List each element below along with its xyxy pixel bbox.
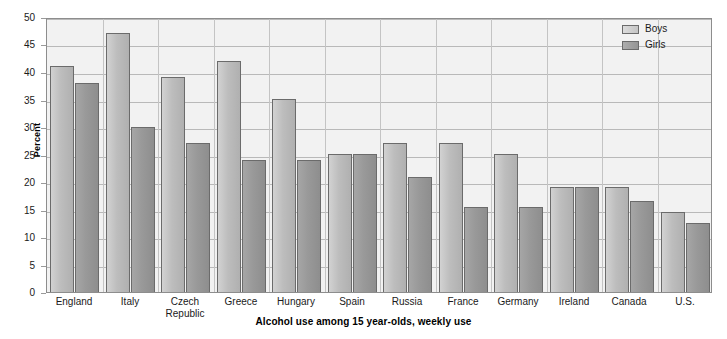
y-axis-tick-label: 20 bbox=[24, 178, 35, 188]
x-axis-tick-label: Greece bbox=[213, 296, 269, 308]
bar-girls-france bbox=[464, 207, 488, 292]
bar-girls-italy bbox=[131, 127, 155, 292]
chart-legend: BoysGirls bbox=[622, 22, 714, 54]
group-separator bbox=[436, 19, 437, 292]
legend-item-label: Girls bbox=[645, 40, 666, 50]
bar-girls-russia bbox=[408, 177, 432, 292]
group-separator bbox=[491, 19, 492, 292]
bar-girls-hungary bbox=[297, 160, 321, 292]
chart-caption: Alcohol use among 15 year-olds, weekly u… bbox=[0, 316, 727, 327]
x-axis-tick-label: Germany bbox=[490, 296, 546, 308]
group-separator bbox=[658, 19, 659, 292]
bar-boys-czech-republic bbox=[161, 77, 185, 292]
y-axis-tick-label: 10 bbox=[24, 233, 35, 243]
group-separator bbox=[103, 19, 104, 292]
gridline bbox=[47, 74, 711, 75]
group-separator bbox=[325, 19, 326, 292]
y-axis-tick-label: 15 bbox=[24, 206, 35, 216]
x-axis-tick-label: England bbox=[46, 296, 102, 308]
y-axis-tick-label: 30 bbox=[24, 123, 35, 133]
x-axis-tick-label: Canada bbox=[601, 296, 657, 308]
bar-girls-canada bbox=[630, 201, 654, 292]
bar-boys-greece bbox=[217, 61, 241, 292]
x-axis-tick-label: France bbox=[435, 296, 491, 308]
bar-boys-spain bbox=[328, 154, 352, 292]
bar-girls-germany bbox=[519, 207, 543, 292]
x-axis-tick-label: Spain bbox=[324, 296, 380, 308]
bar-boys-france bbox=[439, 143, 463, 292]
bar-girls-spain bbox=[353, 154, 377, 292]
x-axis-tick-label: Hungary bbox=[268, 296, 324, 308]
gridline bbox=[47, 46, 711, 47]
legend-item-boys[interactable]: Boys bbox=[622, 22, 714, 36]
group-separator bbox=[602, 19, 603, 292]
bar-chart: Percent 05101520253035404550 EnglandItal… bbox=[0, 0, 727, 339]
y-axis-tick-label: 40 bbox=[24, 68, 35, 78]
bar-girls-ireland bbox=[575, 187, 599, 292]
group-separator bbox=[380, 19, 381, 292]
legend-item-label: Boys bbox=[645, 24, 667, 34]
bar-girls-czech-republic bbox=[186, 143, 210, 292]
plot-area bbox=[46, 18, 712, 293]
bar-girls-greece bbox=[242, 160, 266, 292]
legend-swatch-icon bbox=[622, 25, 639, 34]
x-axis-tick-label: Italy bbox=[102, 296, 158, 308]
legend-item-girls[interactable]: Girls bbox=[622, 38, 714, 52]
y-axis-tick-label: 45 bbox=[24, 40, 35, 50]
bar-girls-u-s bbox=[686, 223, 710, 292]
bar-girls-england bbox=[75, 83, 99, 292]
bar-boys-germany bbox=[494, 154, 518, 292]
gridline bbox=[47, 19, 711, 20]
group-separator bbox=[214, 19, 215, 292]
bar-boys-ireland bbox=[550, 187, 574, 292]
x-axis-tick-label: U.S. bbox=[657, 296, 713, 308]
y-axis-tick-mark bbox=[41, 293, 46, 294]
group-separator bbox=[547, 19, 548, 292]
group-separator bbox=[269, 19, 270, 292]
bar-boys-canada bbox=[605, 187, 629, 292]
bar-boys-u-s bbox=[661, 212, 685, 292]
y-axis-tick-label: 5 bbox=[29, 261, 35, 271]
y-axis-ticks: 05101520253035404550 bbox=[0, 18, 40, 293]
bar-boys-england bbox=[50, 66, 74, 292]
bar-boys-italy bbox=[106, 33, 130, 292]
gridline bbox=[47, 102, 711, 103]
y-axis-tick-label: 35 bbox=[24, 96, 35, 106]
x-axis-tick-label: Russia bbox=[379, 296, 435, 308]
y-axis-tick-label: 0 bbox=[29, 288, 35, 298]
group-separator bbox=[158, 19, 159, 292]
x-axis-tick-label: Ireland bbox=[546, 296, 602, 308]
y-axis-tick-label: 25 bbox=[24, 151, 35, 161]
legend-swatch-icon bbox=[622, 41, 639, 50]
bar-boys-hungary bbox=[272, 99, 296, 292]
y-axis-tick-label: 50 bbox=[24, 13, 35, 23]
bar-boys-russia bbox=[383, 143, 407, 292]
